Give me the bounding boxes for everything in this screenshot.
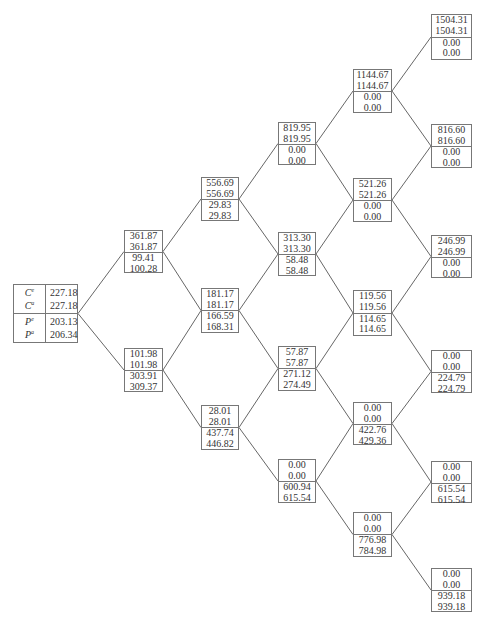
american-call-value: 28.01 [209,417,232,428]
american-call-value: 0.00 [443,580,461,591]
american-put-value: 0.00 [364,212,382,223]
tree-edge [316,91,353,144]
call-values: 816.60816.60 [432,125,471,147]
european-call-value: 361.87 [130,231,158,242]
call-values: 1144.671144.67 [354,70,391,92]
european-put-value: 224.79 [438,373,466,384]
value-american-call: 227.18 [50,299,78,312]
european-put-value: 58.48 [286,255,309,266]
put-values: 271.12274.49 [279,369,315,390]
label-american-call: Ca [25,299,35,312]
tree-edge [392,257,431,314]
call-values: 181.17181.17 [202,289,238,311]
tree-edge [239,428,278,482]
value-european-call: 227.18 [50,286,78,299]
american-call-value: 819.95 [283,134,311,145]
call-values: 28.0128.01 [202,406,238,428]
american-call-value: 0.00 [364,414,382,425]
european-call-value: 246.99 [438,236,466,247]
root-node: Ce Ca 227.18 227.18 Pe Pa 203.13 206.34 [13,284,78,343]
put-values: 29.8329.83 [202,200,238,221]
american-put-value: 29.83 [209,211,232,222]
american-put-value: 168.31 [206,322,234,333]
european-call-value: 0.00 [364,403,382,414]
european-put-value: 437.74 [206,428,234,439]
tree-edge [316,369,353,424]
european-put-value: 0.00 [364,92,382,103]
tree-node-step1-1: 101.98101.98303.91309.37 [124,348,163,392]
european-call-value: 0.00 [443,462,461,473]
european-put-value: 0.00 [443,258,461,269]
european-call-value: 0.00 [364,513,382,524]
tree-node-step5-2: 246.99246.990.000.00 [431,235,472,278]
label-american-put: Pa [25,328,34,341]
american-call-value: 816.60 [438,136,466,147]
american-put-value: 224.79 [438,384,466,395]
tree-node-step2-1: 181.17181.17166.59168.31 [201,288,239,333]
tree-edge [316,200,353,254]
tree-node-step3-3: 0.000.00600.94615.54 [278,459,316,503]
tree-edge [392,535,431,591]
label-european-put: Pe [25,315,34,328]
american-call-value: 0.00 [443,362,461,373]
tree-edge [392,313,431,372]
american-call-value: 0.00 [443,473,461,484]
american-put-value: 0.00 [288,156,306,167]
put-values: 0.000.00 [432,147,471,168]
put-values: 166.59168.31 [202,311,238,332]
call-values: 1504.311504.31 [432,15,471,38]
european-put-value: 600.94 [283,482,311,493]
american-put-value: 784.98 [359,546,387,557]
call-values: 819.95819.95 [279,123,315,145]
call-values: 246.99246.99 [432,236,471,258]
european-put-value: 0.00 [288,145,306,156]
tree-edge [78,252,124,314]
tree-edge [78,314,124,371]
put-values: 776.98784.98 [354,535,391,556]
american-put-value: 58.48 [286,266,309,277]
put-values: 0.000.00 [432,38,471,60]
tree-edge [316,254,353,313]
european-call-value: 0.00 [443,351,461,362]
american-put-value: 615.54 [283,493,311,504]
european-put-value: 939.18 [438,591,466,602]
tree-node-step2-2: 28.0128.01437.74446.82 [201,405,239,450]
tree-node-step5-5: 0.000.00939.18939.18 [431,568,472,612]
call-values: 0.000.00 [432,462,471,484]
american-call-value: 1504.31 [435,26,468,37]
american-put-value: 0.00 [443,48,461,59]
tree-edge [239,311,278,369]
american-call-value: 1144.67 [356,81,388,92]
european-call-value: 816.60 [438,125,466,136]
tree-node-step4-0: 1144.671144.670.000.00 [353,69,392,113]
tree-edge [239,369,278,428]
tree-node-step1-0: 361.87361.8799.41100.28 [124,230,163,273]
american-call-value: 57.87 [286,358,309,369]
put-values: 114.65114.65 [354,314,391,336]
call-values: 0.000.00 [432,351,471,373]
put-values: 0.000.00 [354,201,391,222]
american-put-value: 939.18 [438,602,466,613]
put-values: 0.000.00 [354,92,391,113]
american-call-value: 101.98 [130,360,158,371]
call-values: 521.26521.26 [354,179,391,201]
put-values: 437.74446.82 [202,428,238,449]
root-put-values: 203.13 206.34 [46,314,78,343]
call-values: 101.98101.98 [125,349,162,371]
tree-edge [316,424,353,482]
american-put-value: 309.37 [130,382,158,393]
american-call-value: 246.99 [438,247,466,258]
tree-edge [316,144,353,201]
put-values: 600.94615.54 [279,482,315,503]
value-european-put: 203.13 [50,315,78,328]
european-call-value: 101.98 [130,349,158,360]
call-values: 313.30313.30 [279,233,315,255]
european-call-value: 556.69 [206,178,234,189]
put-values: 0.000.00 [432,258,471,279]
european-put-value: 615.54 [438,484,466,495]
tree-node-step5-3: 0.000.00224.79224.79 [431,350,472,393]
european-call-value: 0.00 [443,569,461,580]
tree-node-step5-1: 816.60816.600.000.00 [431,124,472,168]
tree-edge [392,200,431,257]
european-call-value: 28.01 [209,406,232,417]
